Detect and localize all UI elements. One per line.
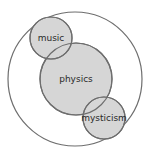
mysticism-label: mysticism: [81, 113, 127, 123]
music-label: music: [38, 33, 65, 43]
venn-diagram: music physics mysticism: [0, 0, 151, 156]
physics-label: physics: [59, 74, 93, 84]
